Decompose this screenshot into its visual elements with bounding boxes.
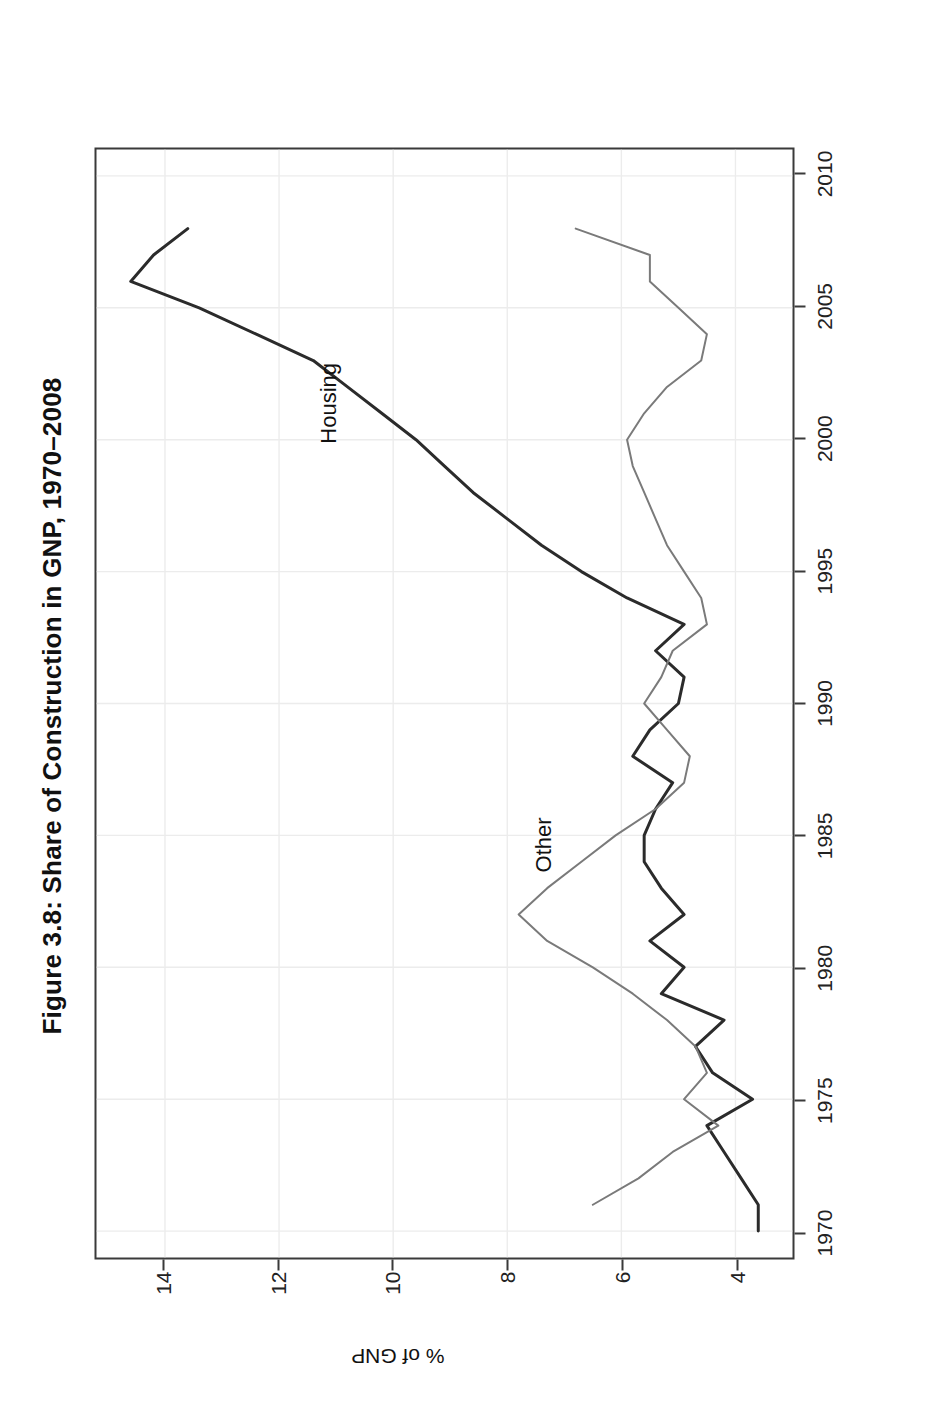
y-tick-mark [391, 1259, 393, 1270]
x-tick-label: 2000 [812, 415, 836, 462]
figure-page: Figure 3.8: Share of Construction in GNP… [0, 0, 942, 1411]
x-tick-label: 1975 [812, 1077, 836, 1124]
y-tick-label: 4 [725, 1271, 749, 1303]
y-tick-label: 6 [610, 1271, 634, 1303]
x-tick-mark [794, 1099, 805, 1101]
plot-area [94, 147, 794, 1259]
page-title: Figure 3.8: Share of Construction in GNP… [36, 0, 67, 1411]
x-tick-mark [794, 570, 805, 572]
x-tick-mark [794, 834, 805, 836]
x-tick-label: 1980 [812, 944, 836, 991]
y-tick-mark [621, 1259, 623, 1270]
series-line-other [518, 228, 718, 1204]
x-tick-label: 1995 [812, 547, 836, 594]
x-tick-mark [794, 305, 805, 307]
y-tick-label: 14 [151, 1271, 175, 1303]
x-tick-label: 1985 [812, 812, 836, 859]
x-tick-label: 2005 [812, 283, 836, 330]
x-tick-mark [794, 172, 805, 174]
x-tick-mark [794, 437, 805, 439]
data-layer [96, 149, 792, 1257]
y-tick-mark [506, 1259, 508, 1270]
series-svg [96, 149, 792, 1257]
x-tick-label: 2010 [812, 150, 836, 197]
y-tick-mark [277, 1259, 279, 1270]
x-tick-label: 1990 [812, 680, 836, 727]
x-tick-label: 1970 [812, 1209, 836, 1256]
y-tick-label: 10 [380, 1271, 404, 1303]
y-tick-mark [162, 1259, 164, 1270]
x-tick-mark [794, 967, 805, 969]
y-tick-label: 12 [266, 1271, 290, 1303]
y-tick-mark [736, 1259, 738, 1270]
y-axis-title: % of GNP [351, 1343, 444, 1367]
y-tick-label: 8 [495, 1271, 519, 1303]
series-line-housing [130, 228, 758, 1230]
series-label-housing: Housing [315, 362, 341, 443]
series-label-other: Other [530, 817, 556, 872]
rotated-figure-canvas: Figure 3.8: Share of Construction in GNP… [0, 0, 942, 1411]
x-tick-mark [794, 702, 805, 704]
x-tick-mark [794, 1232, 805, 1234]
